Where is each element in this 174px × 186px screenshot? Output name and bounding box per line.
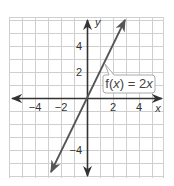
svg-text:4: 4 <box>136 101 142 113</box>
svg-text:2: 2 <box>110 101 116 113</box>
svg-text:4: 4 <box>76 40 82 52</box>
function-label: f(x) = 2x <box>103 64 155 93</box>
svg-text:f(x) = 2x: f(x) = 2x <box>105 76 153 91</box>
svg-text:−2: −2 <box>55 101 68 113</box>
svg-text:x: x <box>154 102 161 114</box>
svg-text:−4: −4 <box>69 144 82 156</box>
svg-text:2: 2 <box>76 66 82 78</box>
function-graph: −4 −2 2 4 x 4 2 −4 y f(x) = 2x <box>0 0 174 186</box>
svg-text:−4: −4 <box>29 101 42 113</box>
